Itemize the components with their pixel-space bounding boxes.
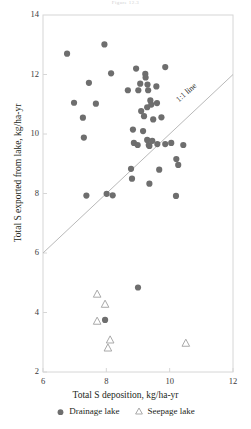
data-point-drainage [175, 162, 181, 168]
legend-label-drainage-lake: Drainage lake [69, 406, 119, 416]
data-point-drainage [141, 113, 147, 119]
data-point-drainage [135, 284, 141, 290]
data-point-drainage [64, 51, 70, 57]
data-point-drainage [125, 87, 131, 93]
data-point-drainage [110, 192, 116, 198]
data-point-drainage [137, 81, 143, 87]
x-tick-label-12: 12 [221, 376, 245, 386]
data-point-drainage [135, 87, 141, 93]
data-point-drainage [101, 41, 107, 47]
scatter-chart-figure: Figure 12.3 Total S exported from lake, … [0, 0, 251, 429]
data-point-drainage [83, 192, 89, 198]
data-point-seepage [101, 300, 109, 307]
data-point-drainage [108, 70, 114, 76]
data-point-drainage [153, 83, 159, 89]
data-point-drainage [154, 100, 160, 106]
data-point-drainage [146, 181, 152, 187]
data-point-drainage [140, 128, 146, 134]
series-drainage-lake [64, 41, 186, 323]
x-tick-label-6: 6 [31, 376, 55, 386]
data-point-drainage [146, 143, 152, 149]
chart-legend: Drainage lake Seepage lake [0, 406, 251, 416]
data-point-drainage [86, 80, 92, 86]
y-tick-label-6: 6 [17, 247, 39, 257]
data-point-drainage [144, 82, 150, 88]
legend-item-seepage-lake: Seepage lake [134, 406, 195, 416]
data-point-drainage [129, 176, 135, 182]
data-point-drainage [158, 114, 164, 120]
data-point-drainage [154, 141, 160, 147]
y-tick-label-2: 2 [17, 366, 39, 376]
y-tick-label-8: 8 [17, 188, 39, 198]
y-tick-label-4: 4 [17, 307, 39, 317]
data-point-drainage [173, 156, 179, 162]
data-point-drainage [130, 126, 136, 132]
data-point-drainage [135, 142, 141, 148]
data-point-drainage [71, 100, 77, 106]
figure-title: Figure 12.3 [0, 0, 251, 8]
data-point-seepage [106, 336, 114, 343]
legend-item-drainage-lake: Drainage lake [56, 406, 119, 416]
y-tick-label-14: 14 [17, 9, 39, 19]
x-tick-label-10: 10 [158, 376, 182, 386]
data-point-drainage [93, 101, 99, 107]
y-tick-label-10: 10 [17, 128, 39, 138]
x-axis-label: Total S deposition, kg/ha-yr [0, 390, 251, 400]
filled-circle-icon [56, 407, 65, 416]
data-point-drainage [148, 101, 154, 107]
data-point-drainage [145, 87, 151, 93]
data-point-seepage [182, 339, 190, 346]
data-point-drainage [81, 134, 87, 140]
open-triangle-icon [134, 406, 144, 416]
data-point-drainage [133, 65, 139, 71]
data-point-drainage [143, 74, 149, 80]
legend-label-seepage-lake: Seepage lake [148, 406, 195, 416]
data-point-seepage [93, 290, 101, 297]
x-tick-label-8: 8 [94, 376, 118, 386]
data-point-drainage [80, 115, 86, 121]
data-point-drainage [156, 167, 162, 173]
data-point-drainage [150, 116, 156, 122]
data-point-seepage [93, 317, 101, 324]
data-point-drainage [162, 141, 168, 147]
data-point-drainage [173, 193, 179, 199]
data-point-drainage [104, 191, 110, 197]
data-point-drainage [162, 64, 168, 70]
data-point-seepage [104, 344, 112, 351]
y-tick-label-12: 12 [17, 69, 39, 79]
data-point-drainage [168, 140, 174, 146]
data-point-drainage [128, 166, 134, 172]
data-point-drainage [102, 317, 108, 323]
data-point-drainage [180, 142, 186, 148]
y-axis-label: Total S exported from lake, kg/ha-yr [13, 93, 23, 253]
plot-area [0, 0, 251, 429]
